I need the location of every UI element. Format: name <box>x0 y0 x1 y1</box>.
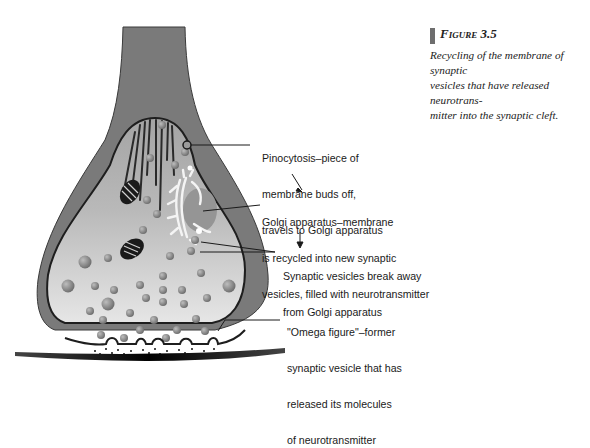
postsynaptic-membrane <box>15 348 285 361</box>
caption-accent-bar <box>430 28 435 44</box>
terminal-interior <box>47 118 245 323</box>
caption-text: Recycling of the membrane of synaptic ve… <box>430 48 590 123</box>
presynaptic-membrane <box>65 330 245 344</box>
label-omega-figure: "Omega figure"–former synaptic vesicle t… <box>287 302 402 448</box>
figure-number: Figure 3.5 <box>440 26 497 42</box>
